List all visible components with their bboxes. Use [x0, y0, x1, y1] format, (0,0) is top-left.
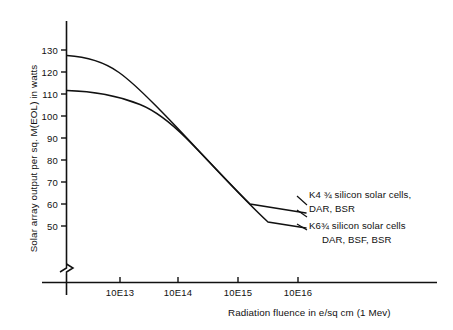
curve-k4-silicon-solar-cells: [67, 56, 306, 213]
y-tick-marks: [61, 50, 67, 226]
x-tick-label-10e15: 10E15: [224, 287, 252, 298]
series-annotation-k6-line1: K6¾ silicon solar cells: [309, 219, 406, 233]
x-tick-label-10e16: 10E16: [284, 287, 312, 298]
y-axis-break-icon: [60, 264, 73, 274]
y-axis-title: Solar array output per sq. M(EOL) in wat…: [28, 44, 39, 274]
x-tick-label-10e14: 10E14: [164, 287, 192, 298]
x-tick-marks: [120, 277, 298, 283]
x-axis-title: Radiation fluence in e/sq cm (1 Mev): [228, 307, 391, 318]
series-curves: [67, 56, 306, 228]
series-annotation-k4-line2: DAR, BSR: [309, 202, 411, 216]
series-annotation-k6-line2: DAR, BSF, BSR: [309, 233, 406, 247]
series-annotation-k4: K4 ¾ silicon solar cells, DAR, BSR: [309, 188, 411, 215]
series-annotation-k4-line1: K4 ¾ silicon solar cells,: [309, 188, 411, 202]
x-tick-label-10e13: 10E13: [106, 287, 134, 298]
series-annotation-k6: K6¾ silicon solar cells DAR, BSF, BSR: [309, 219, 406, 246]
chart-plot-area: [0, 0, 453, 330]
chart-figure: 130 120 110 100 90 80 70 60 50 10E13 10E…: [0, 0, 453, 330]
